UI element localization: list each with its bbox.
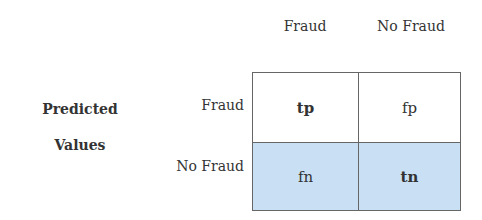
cell-true-negative: tn <box>359 143 460 210</box>
side-label-predicted: Predicted <box>20 101 140 117</box>
side-label-values: Values <box>20 137 140 153</box>
cell-true-positive: tp <box>253 73 359 143</box>
cell-false-negative: fn <box>253 143 359 210</box>
column-header-no-fraud: No Fraud <box>358 18 464 34</box>
confusion-matrix: tp fp fn tn <box>252 72 461 211</box>
cell-false-positive: fp <box>359 73 460 143</box>
row-header-fraud: Fraud <box>134 97 244 113</box>
row-header-no-fraud: No Fraud <box>134 158 244 174</box>
column-header-fraud: Fraud <box>252 18 358 34</box>
